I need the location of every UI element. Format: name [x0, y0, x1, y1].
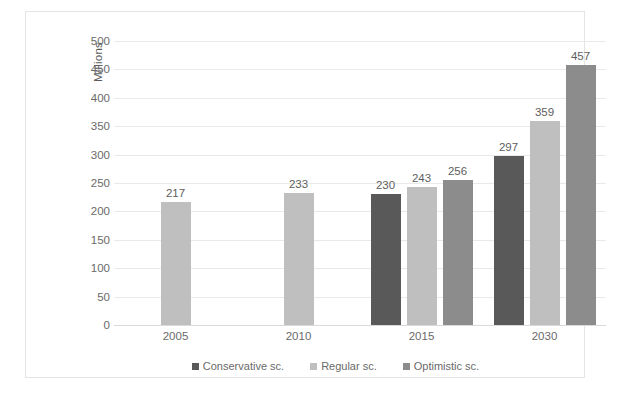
gridline: [114, 98, 606, 99]
bar[interactable]: [284, 193, 314, 325]
y-axis-tick-label: 100: [74, 262, 110, 274]
y-axis-tick-label: 350: [74, 120, 110, 132]
legend-label: Optimistic sc.: [414, 360, 479, 372]
legend-swatch-icon: [403, 363, 410, 370]
bar[interactable]: [161, 202, 191, 325]
plot-area: 217233230243256297359457: [114, 41, 606, 325]
bar[interactable]: [566, 65, 596, 325]
bar-value-label: 457: [571, 50, 590, 62]
y-axis-tick-label: 500: [74, 35, 110, 47]
gridline: [114, 41, 606, 42]
legend-item[interactable]: Conservative sc.: [192, 360, 284, 372]
bar-value-label: 233: [289, 178, 308, 190]
bar[interactable]: [494, 156, 524, 325]
y-axis-tick-label: 250: [74, 177, 110, 189]
chart-frame: Millions 050100150200250300350400450500 …: [25, 11, 585, 378]
y-axis-tick-label: 400: [74, 92, 110, 104]
legend-swatch-icon: [192, 363, 199, 370]
legend-swatch-icon: [310, 363, 317, 370]
bar[interactable]: [371, 194, 401, 325]
bar-value-label: 297: [499, 141, 518, 153]
y-axis-tick-label: 450: [74, 63, 110, 75]
legend-item[interactable]: Regular sc.: [310, 360, 377, 372]
y-axis-tick-label: 150: [74, 234, 110, 246]
x-axis-category-label: 2015: [409, 330, 435, 342]
y-axis-tick-labels: 050100150200250300350400450500: [70, 41, 110, 325]
y-axis-tick-label: 300: [74, 149, 110, 161]
x-axis-category-label: 2010: [286, 330, 312, 342]
y-axis-tick-label: 0: [74, 319, 110, 331]
gridline: [114, 325, 606, 326]
bar[interactable]: [407, 187, 437, 325]
bar[interactable]: [443, 180, 473, 325]
bar-value-label: 243: [412, 172, 431, 184]
legend-item[interactable]: Optimistic sc.: [403, 360, 479, 372]
bar-value-label: 230: [376, 179, 395, 191]
bar-value-label: 256: [448, 165, 467, 177]
bar-value-label: 217: [166, 187, 185, 199]
y-axis-tick-label: 200: [74, 205, 110, 217]
chart-legend: Conservative sc.Regular sc.Optimistic sc…: [26, 360, 619, 372]
y-axis-tick-label: 50: [74, 291, 110, 303]
bar-value-label: 359: [535, 106, 554, 118]
x-axis-category-label: 2005: [163, 330, 189, 342]
gridline: [114, 69, 606, 70]
x-axis-category-labels: 2005201020152030: [114, 330, 606, 348]
x-axis-category-label: 2030: [532, 330, 558, 342]
legend-label: Conservative sc.: [203, 360, 284, 372]
bar[interactable]: [530, 121, 560, 325]
legend-label: Regular sc.: [321, 360, 377, 372]
